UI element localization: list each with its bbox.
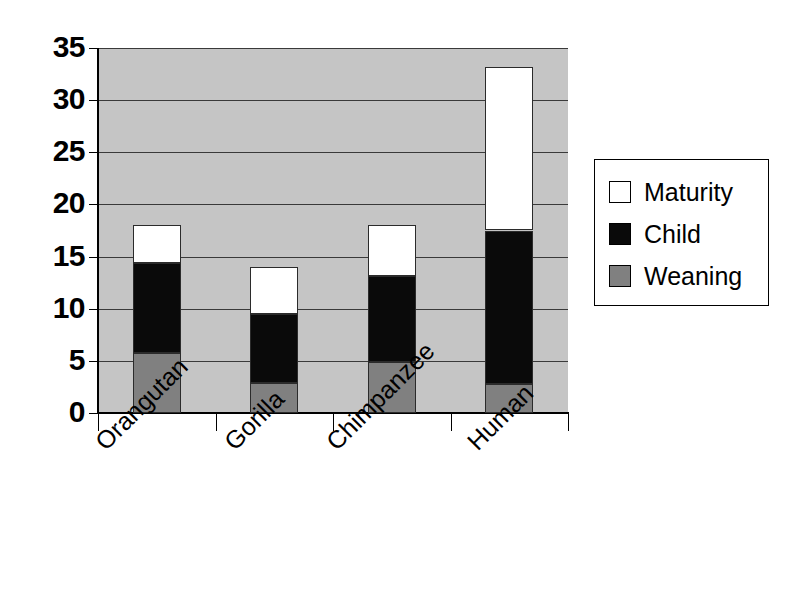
- y-axis-tick-label-wrap: 30: [0, 84, 85, 114]
- y-axis-tick: [89, 361, 98, 362]
- bar-segment-child: [133, 263, 181, 353]
- bar-segment-maturity: [250, 267, 298, 314]
- stacked-bar-chart: 35302520151050 OrangutanGorillaChimpanze…: [0, 0, 797, 602]
- legend-label-maturity: Maturity: [644, 180, 733, 205]
- bar-segment-child: [485, 231, 533, 384]
- bar-group: [485, 48, 533, 413]
- y-axis-tick-label: 35: [0, 32, 85, 62]
- bar-segment-maturity: [133, 225, 181, 263]
- legend-label-child: Child: [644, 222, 701, 247]
- legend-item: Child: [609, 213, 768, 255]
- legend-swatch-weaning: [609, 265, 631, 287]
- bar-segment-maturity: [368, 225, 416, 276]
- y-axis-tick-label-wrap: 25: [0, 136, 85, 166]
- chart-legend: MaturityChildWeaning: [594, 159, 769, 306]
- y-axis-tick-label-wrap: 10: [0, 293, 85, 323]
- y-axis-tick-label: 20: [0, 188, 85, 218]
- y-axis-line: [97, 48, 99, 414]
- y-axis-tick: [89, 48, 98, 49]
- y-axis-tick-label: 5: [0, 345, 85, 375]
- legend-item: Weaning: [609, 255, 768, 297]
- legend-item: Maturity: [609, 171, 768, 213]
- legend-label-weaning: Weaning: [644, 264, 742, 289]
- x-axis-tick: [451, 414, 452, 431]
- y-axis-tick-label: 15: [0, 241, 85, 271]
- y-axis-tick-label: 30: [0, 84, 85, 114]
- y-axis-tick: [89, 309, 98, 310]
- bar-segment-child: [250, 314, 298, 383]
- y-axis-tick-label: 25: [0, 136, 85, 166]
- legend-swatch-child: [609, 223, 631, 245]
- y-axis-tick: [89, 204, 98, 205]
- y-axis-tick: [89, 100, 98, 101]
- bar-segment-maturity: [485, 67, 533, 231]
- y-axis-tick-label-wrap: 5: [0, 345, 85, 375]
- y-axis-tick-label-wrap: 35: [0, 32, 85, 62]
- y-axis-tick: [89, 257, 98, 258]
- legend-swatch-maturity: [609, 181, 631, 203]
- x-axis-tick: [216, 414, 217, 431]
- y-axis-tick-label-wrap: 0: [0, 397, 85, 427]
- y-axis-tick-label-wrap: 20: [0, 188, 85, 218]
- bar-group: [250, 48, 298, 413]
- y-axis-tick-label-wrap: 15: [0, 241, 85, 271]
- y-axis-tick: [89, 413, 98, 414]
- y-axis-tick: [89, 152, 98, 153]
- y-axis-tick-label: 10: [0, 293, 85, 323]
- y-axis-tick-label: 0: [0, 397, 85, 427]
- x-axis-tick: [568, 414, 569, 431]
